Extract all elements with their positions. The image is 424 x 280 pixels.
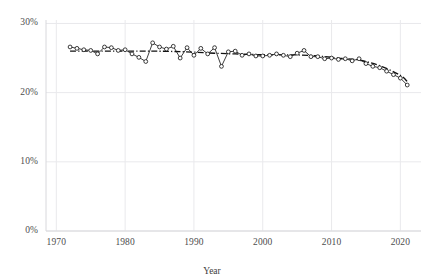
y-axis-tick-label: 20%: [0, 87, 38, 97]
y-axis-tick-label: 30%: [0, 17, 38, 27]
data-point-markers: [68, 41, 409, 87]
x-axis-tick-label: 2000: [238, 237, 288, 247]
y-axis-tick-label: 10%: [0, 156, 38, 166]
trend-line-series: [70, 51, 407, 81]
x-axis-tick-label: 1970: [31, 237, 81, 247]
chart-container: 0%10%20%30% 197019801990200020102020 Yea…: [0, 0, 424, 280]
y-axis-tick-label: 0%: [0, 225, 38, 235]
x-axis-tick-label: 1980: [100, 237, 150, 247]
x-axis-title: Year: [0, 266, 424, 276]
x-axis-tick-label: 2010: [307, 237, 357, 247]
x-axis-tick-label: 2020: [375, 237, 424, 247]
x-axis-tick-label: 1990: [169, 237, 219, 247]
observed-line-series: [70, 43, 407, 85]
